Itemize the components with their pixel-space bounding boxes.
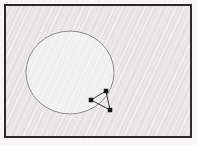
- scanned-figure: [0, 0, 197, 145]
- figure-frame: [4, 4, 192, 138]
